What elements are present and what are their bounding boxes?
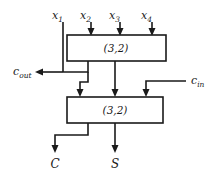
input-label-x3: x3	[109, 9, 120, 24]
carry-in-label: cin	[191, 74, 205, 89]
wire-top-sum	[112, 61, 119, 97]
arrowhead-S	[112, 145, 119, 153]
circuit-svg: x1 x2 x3 x4 cout cin (3,2) (3,2) C S	[0, 0, 221, 174]
wire-x4	[149, 22, 156, 36]
arrowhead-bottom-in-mid	[112, 89, 119, 97]
input-label-x2: x2	[80, 9, 91, 24]
output-label-S: S	[111, 157, 119, 171]
wire-cin	[143, 81, 187, 97]
arrowhead-cout	[35, 69, 43, 76]
arrowhead-bottom-in-left	[77, 89, 84, 97]
output-label-C: C	[50, 157, 59, 171]
input-label-x4: x4	[141, 9, 152, 24]
input-label-x1: x1	[52, 9, 63, 24]
counter-label-top: (3,2)	[104, 42, 129, 54]
wire-cout	[35, 69, 63, 76]
counter-label-bottom: (3,2)	[103, 104, 128, 116]
wire-S	[112, 123, 119, 153]
circuit-diagram: x1 x2 x3 x4 cout cin (3,2) (3,2) C S	[0, 0, 221, 174]
wire-C	[52, 123, 89, 153]
wire-top-carry	[63, 61, 88, 97]
carry-out-label: cout	[13, 65, 33, 80]
arrowhead-cin	[143, 89, 150, 97]
wire-x3	[117, 22, 124, 36]
wire-x2	[88, 22, 95, 36]
arrowhead-C	[52, 145, 59, 153]
